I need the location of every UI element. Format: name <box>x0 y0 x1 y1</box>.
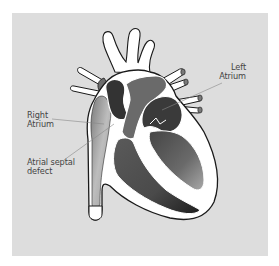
label-left-atrium-line2: Atrium <box>219 72 246 81</box>
heart-diagram <box>0 0 279 266</box>
label-asd-line2: defect <box>27 167 75 176</box>
aortic-branches <box>103 29 155 74</box>
label-left-atrium: Left Atrium <box>219 63 246 82</box>
label-atrial-septal-defect: Atrial septal defect <box>27 158 75 177</box>
label-right-atrium: Right Atrium <box>27 111 54 130</box>
inferior-vena-cava <box>89 206 102 220</box>
label-right-atrium-line2: Atrium <box>27 120 54 129</box>
